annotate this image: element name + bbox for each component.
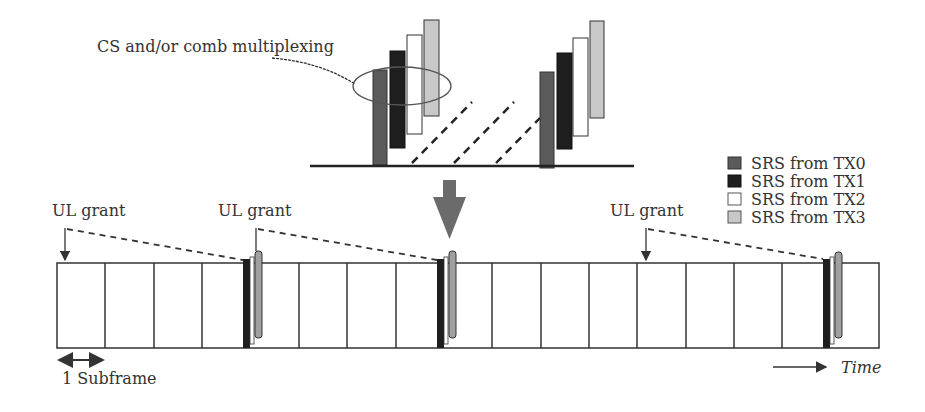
srs-symbol-1 [243, 251, 262, 348]
srs-symbol-2 [437, 251, 456, 348]
ul-grant-1: UL grant [52, 201, 243, 260]
legend: SRS from TX0 SRS from TX1 SRS from TX2 S… [728, 154, 866, 227]
srs-tx3-block [255, 251, 262, 338]
legend-swatch [728, 175, 741, 187]
srs-tx1-bar [390, 51, 405, 148]
srs-tx0-bar [540, 72, 554, 168]
grant-dashed-link [648, 229, 823, 259]
srs-tx2-bar [407, 35, 422, 134]
legend-swatch [728, 193, 741, 205]
time-label: Time [841, 358, 881, 377]
top-inset: CS and/or comb multiplexing [97, 20, 634, 168]
ul-grant-label: UL grant [610, 201, 684, 220]
subframe-label: 1 Subframe [62, 369, 157, 388]
legend-swatch [728, 157, 741, 169]
timeline-frame [57, 263, 879, 348]
legend-item-tx0: SRS from TX0 [728, 154, 866, 173]
annotation-leader-line [272, 58, 355, 84]
legend-label: SRS from TX0 [751, 154, 866, 173]
srs-tx2-bar [573, 38, 588, 136]
legend-item-tx2: SRS from TX2 [728, 190, 866, 209]
legend-label: SRS from TX1 [751, 172, 866, 191]
ul-grant-label: UL grant [52, 201, 126, 220]
multiplexing-annotation: CS and/or comb multiplexing [97, 37, 334, 56]
srs-diagram: CS and/or comb multiplexing [0, 0, 925, 412]
srs-dark-block [823, 259, 830, 348]
legend-label: SRS from TX3 [751, 208, 866, 227]
ul-grant-2: UL grant [218, 201, 437, 260]
grant-dashed-link [258, 229, 437, 260]
srs-tx3-block [449, 251, 456, 338]
legend-item-tx3: SRS from TX3 [728, 208, 866, 227]
srs-symbol-3 [823, 252, 842, 348]
srs-tx0-bar [373, 70, 387, 165]
ul-grant-label: UL grant [218, 201, 292, 220]
subframe-width-marker: 1 Subframe [59, 360, 157, 388]
srs-dark-block [437, 259, 444, 348]
grant-dashed-link [67, 229, 243, 260]
zoom-down-arrow [433, 180, 466, 239]
subframe-timeline: UL grant UL grant UL grant 1 Subframe Ti… [52, 201, 881, 388]
time-axis: Time [773, 358, 881, 377]
srs-group-right [540, 21, 604, 168]
srs-tx1-bar [557, 53, 572, 149]
srs-dark-block [243, 259, 250, 348]
legend-label: SRS from TX2 [751, 190, 866, 209]
legend-swatch [728, 211, 741, 223]
srs-group-left [373, 20, 439, 165]
legend-item-tx1: SRS from TX1 [728, 172, 866, 191]
srs-tx3-bar [590, 21, 604, 118]
srs-tx3-block [835, 252, 842, 338]
